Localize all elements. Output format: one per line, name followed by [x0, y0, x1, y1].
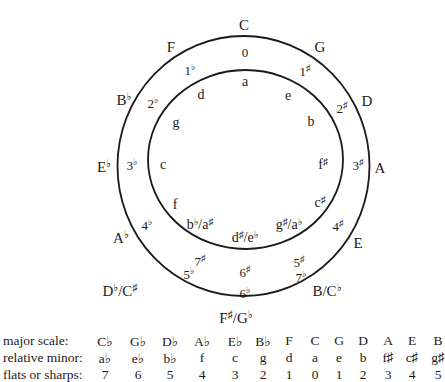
accidental-count-label: 7♯ — [194, 255, 205, 268]
major-key-label: C — [239, 18, 249, 33]
table-cell: b — [360, 350, 367, 366]
accidental-count-label: 6♯ — [239, 266, 250, 279]
minor-key-label: c♯ — [314, 196, 325, 210]
accidental-count-label: 1♭ — [185, 64, 196, 77]
row-label: flats or sharps: — [3, 367, 82, 382]
table-cell: c♯ — [406, 350, 419, 366]
table-cell: B♭ — [255, 333, 270, 350]
table-cell: 7 — [102, 367, 109, 382]
table-cell: D♭ — [162, 333, 178, 350]
table-cell: C — [310, 333, 319, 349]
minor-key-label: d — [198, 88, 205, 102]
accidental-count-label: 2♯ — [336, 102, 347, 115]
accidental-count-label: 2♭ — [148, 97, 159, 110]
major-key-label: A♭ — [113, 231, 129, 246]
table-cell: E♭ — [228, 333, 243, 350]
table-cell: b♭ — [163, 350, 176, 367]
accidental-count-label: 7♭ — [296, 271, 307, 284]
row-label: relative minor: — [3, 350, 83, 366]
table-cell: e — [336, 350, 342, 366]
table-cell: 5 — [167, 367, 174, 382]
table-cell: 0 — [312, 367, 319, 382]
table-cell: g♯ — [431, 350, 445, 366]
table-cell: 4 — [409, 367, 416, 382]
major-key-label: D♭/C♯ — [102, 284, 137, 299]
table-cell: 2 — [260, 367, 267, 382]
minor-key-label: g — [173, 116, 180, 130]
accidental-count-label: 6♭ — [240, 287, 251, 300]
minor-key-label: b♭/a♯ — [187, 218, 214, 232]
accidental-count-label: 5♯ — [293, 256, 304, 269]
table-cell: G♭ — [130, 333, 146, 350]
table-cell: d — [286, 350, 293, 366]
table-cell: c — [232, 350, 238, 366]
table-cell: B — [433, 333, 442, 349]
major-key-label: E — [353, 236, 362, 251]
accidental-count-label: 3♯ — [352, 159, 363, 172]
accidental-count-label: 0 — [242, 46, 249, 59]
table-cell: 2 — [360, 367, 367, 382]
table-cell: f♯ — [382, 350, 393, 366]
table-row: relative minor:a♭e♭b♭fcgdaebf♯c♯g♯ — [0, 350, 444, 366]
table-cell: f — [200, 350, 205, 366]
major-key-label: F♯/G♭ — [219, 311, 253, 326]
table-cell: A♭ — [194, 333, 210, 350]
minor-key-label: c — [160, 158, 166, 172]
major-key-label: A — [375, 161, 386, 176]
major-key-label: D — [362, 94, 373, 109]
table-cell: F — [285, 333, 293, 349]
minor-key-label: f — [173, 198, 178, 212]
table-cell: a — [312, 350, 318, 366]
table-cell: 6 — [135, 367, 142, 382]
table-cell: g — [260, 350, 267, 366]
minor-key-label: b — [308, 115, 315, 129]
major-key-label: B/C♭ — [312, 284, 341, 299]
row-label: major scale: — [3, 333, 69, 349]
minor-key-label: g♯/a♭ — [276, 218, 303, 232]
table-cell: a♭ — [99, 350, 111, 367]
table-cell: E — [408, 333, 416, 349]
minor-key-label: f♯ — [318, 158, 328, 172]
table-cell: 1 — [286, 367, 293, 382]
accidental-count-label: 4♭ — [142, 219, 153, 232]
table-cell: 3 — [385, 367, 392, 382]
inner-circle — [148, 70, 343, 249]
table-cell: G — [334, 333, 344, 349]
accidental-count-label: 5♭ — [184, 268, 195, 281]
major-key-label: B♭ — [117, 93, 132, 108]
table-cell: 3 — [232, 367, 239, 382]
table-cell: e♭ — [132, 350, 144, 367]
table-cell: A — [383, 333, 393, 349]
table-cell: 4 — [199, 367, 206, 382]
table-row: major scale:C♭G♭D♭A♭E♭B♭FCGDAEB — [0, 333, 444, 349]
minor-key-label: e — [285, 89, 291, 103]
table-cell: D — [358, 333, 368, 349]
table-cell: 1 — [336, 367, 343, 382]
table-row: flats or sharps:7654321012345 — [0, 367, 444, 382]
major-key-label: E♭ — [97, 160, 111, 175]
accidental-count-label: 3♭ — [127, 159, 138, 172]
accidental-count-label: 4♯ — [332, 220, 343, 233]
minor-key-label: a — [242, 75, 248, 89]
table-cell: 5 — [435, 367, 442, 382]
table-cell: C♭ — [97, 333, 112, 350]
accidental-count-label: 1♯ — [299, 65, 310, 78]
major-key-label: F — [167, 40, 175, 55]
major-key-label: G — [315, 40, 326, 55]
minor-key-label: d♯/e♭ — [232, 231, 259, 245]
